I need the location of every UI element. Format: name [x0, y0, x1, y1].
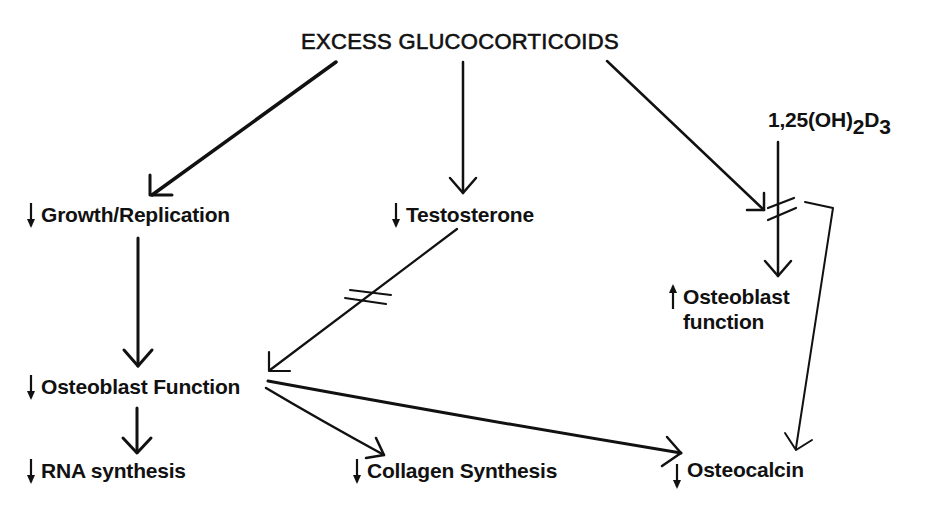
vitamin-d-sub2: 3	[879, 115, 890, 138]
arrow-down-icon	[26, 202, 36, 228]
arrow-down-icon	[672, 463, 682, 489]
arrow-down-icon	[26, 458, 36, 484]
edge-glucocorticoids-to-testosterone	[450, 62, 476, 193]
label-vitamin-d: 1,25(OH)2D3	[768, 108, 891, 132]
node-collagen-synthesis: Collagen Synthesis	[352, 458, 557, 484]
edge-growth-to-osteoblast-down	[124, 238, 152, 366]
rna-label: RNA synthesis	[41, 459, 186, 482]
vitamin-d-sub1: 2	[853, 115, 864, 138]
growth-label: Growth/Replication	[41, 203, 230, 226]
node-testosterone: Testosterone	[391, 202, 534, 228]
edge-glucocorticoids-to-growth	[150, 62, 336, 195]
node-osteoblast-function-down: Osteoblast Function	[26, 374, 240, 400]
edge-glucocorticoids-to-vitd-block	[607, 61, 764, 210]
block-mark-vitd	[768, 198, 794, 208]
node-osteocalcin: Osteocalcin	[672, 458, 804, 489]
edge-osteoblast-to-rna	[123, 408, 151, 453]
arrow-down-icon	[26, 374, 36, 400]
edge-osteoblast-to-osteocalcin	[268, 381, 681, 466]
diagram-edges	[0, 0, 950, 514]
arrow-up-icon	[668, 284, 678, 310]
node-osteoblast-function-up: Osteoblast function	[668, 284, 790, 334]
osteoblast-up-label-line2: function	[668, 310, 790, 334]
vitamin-d-base: 1,25(OH)	[768, 108, 853, 131]
edge-vitd-to-osteoblast-up	[765, 142, 796, 276]
diagram-canvas: EXCESS GLUCOCORTICOIDS 1,25(OH)2D3 Growt…	[0, 0, 950, 514]
arrow-down-icon	[352, 458, 362, 484]
title-excess-glucocorticoids: EXCESS GLUCOCORTICOIDS	[301, 30, 619, 54]
vitamin-d-mid: D	[864, 108, 879, 131]
collagen-label: Collagen Synthesis	[367, 459, 557, 482]
arrow-down-icon	[391, 202, 401, 228]
testosterone-label: Testosterone	[406, 203, 534, 226]
osteocalcin-label: Osteocalcin	[687, 458, 804, 481]
node-growth-replication: Growth/Replication	[26, 202, 230, 228]
osteoblast-down-label: Osteoblast Function	[41, 375, 240, 398]
node-rna-synthesis: RNA synthesis	[26, 458, 186, 484]
edge-vitd-to-osteocalcin	[785, 202, 833, 450]
osteoblast-up-label-line1: Osteoblast	[683, 285, 790, 308]
edge-testosterone-to-osteoblast-down	[269, 229, 457, 371]
